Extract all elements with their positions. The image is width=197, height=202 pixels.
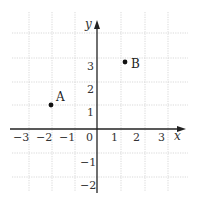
point-a-dot-icon bbox=[49, 103, 54, 108]
y-tick-neg2: −2 bbox=[80, 179, 96, 192]
x-tick-neg1: −1 bbox=[59, 131, 75, 144]
x-tick-1: 1 bbox=[111, 131, 118, 144]
vertical-grid-lines bbox=[29, 12, 168, 192]
y-axis-arrow-icon bbox=[94, 20, 100, 29]
x-tick-0: 0 bbox=[86, 131, 93, 144]
y-axis-label: y bbox=[84, 17, 92, 31]
point-a-label: A bbox=[55, 90, 65, 104]
x-tick-3: 3 bbox=[158, 131, 165, 144]
x-tick-neg3: −3 bbox=[13, 131, 29, 144]
x-axis-label: x bbox=[174, 129, 181, 143]
x-tick-labels: −3 −2 −1 0 1 2 3 bbox=[13, 131, 165, 144]
y-tick-3: 3 bbox=[87, 60, 94, 73]
y-tick-neg1: −1 bbox=[80, 156, 96, 169]
coordinate-plane: y x −3 −2 −1 0 1 2 3 3 2 1 −1 −2 A B bbox=[0, 0, 197, 202]
y-tick-labels: 3 2 1 −1 −2 bbox=[80, 60, 96, 192]
x-tick-2: 2 bbox=[133, 131, 140, 144]
point-b: B bbox=[123, 57, 140, 71]
point-b-label: B bbox=[131, 57, 140, 71]
y-tick-2: 2 bbox=[87, 83, 94, 96]
horizontal-grid-lines bbox=[12, 33, 188, 177]
y-tick-1: 1 bbox=[87, 106, 94, 119]
point-b-dot-icon bbox=[123, 60, 128, 65]
x-tick-neg2: −2 bbox=[36, 131, 52, 144]
